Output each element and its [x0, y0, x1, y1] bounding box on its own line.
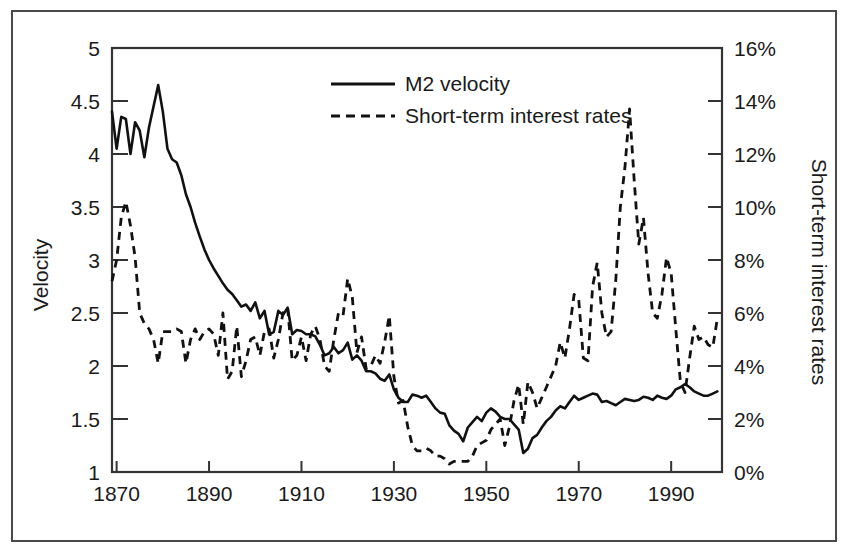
legend-label-m2-velocity: M2 velocity [405, 72, 511, 95]
y-tick-label: 1 [88, 461, 100, 484]
y-tick-label: 4.5 [71, 90, 100, 113]
chart-legend: M2 velocity Short-term interest rates [331, 72, 631, 127]
y2-tick-label: 0% [734, 461, 764, 484]
x-tick-label: 1970 [555, 482, 602, 505]
y-tick-label: 3.5 [71, 196, 100, 219]
y-axis-right-tick-labels: 0%2%4%6%8%10%12%14%16% [734, 37, 776, 484]
y-tick-label: 4 [88, 143, 100, 166]
series-short-term-interest-rates [112, 109, 717, 464]
x-axis-ticks [117, 461, 672, 472]
y2-tick-label: 14% [734, 90, 776, 113]
x-axis-tick-labels: 1870189019101930195019701990 [93, 482, 694, 505]
y-axis-left-title: Velocity [29, 238, 52, 311]
y-tick-label: 5 [88, 37, 100, 60]
y-axis-left-ticks [112, 101, 128, 419]
legend-label-short-term-interest-rates: Short-term interest rates [405, 104, 631, 127]
y-tick-label: 1.5 [71, 408, 100, 431]
x-tick-label: 1950 [463, 482, 510, 505]
y2-tick-label: 12% [734, 143, 776, 166]
y-axis-left-tick-labels: 11.522.533.544.55 [71, 37, 101, 484]
y2-tick-label: 16% [734, 37, 776, 60]
x-tick-label: 1910 [278, 482, 325, 505]
y2-tick-label: 10% [734, 196, 776, 219]
x-tick-label: 1990 [648, 482, 695, 505]
y2-tick-label: 6% [734, 302, 764, 325]
y-tick-label: 2.5 [71, 302, 100, 325]
x-tick-label: 1930 [371, 482, 418, 505]
chart-plot: 1870189019101930195019701990 11.522.533.… [0, 0, 851, 557]
y-axis-right-ticks [708, 101, 722, 419]
y-axis-right-title: Short-term interest rates [808, 159, 831, 385]
x-tick-label: 1890 [186, 482, 233, 505]
figure-container: 1870189019101930195019701990 11.522.533.… [0, 0, 851, 557]
y2-tick-label: 2% [734, 408, 764, 431]
y2-tick-label: 8% [734, 249, 764, 272]
y-tick-label: 2 [88, 355, 100, 378]
x-tick-label: 1870 [93, 482, 140, 505]
series-lines [112, 85, 717, 464]
y-tick-label: 3 [88, 249, 100, 272]
y2-tick-label: 4% [734, 355, 764, 378]
